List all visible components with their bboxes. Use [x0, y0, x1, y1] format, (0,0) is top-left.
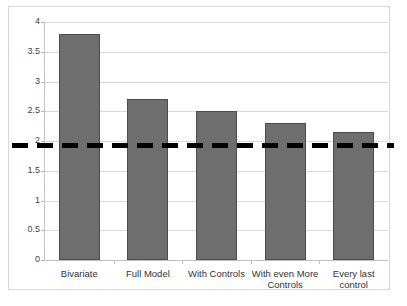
y-tick-mark	[41, 111, 45, 112]
y-tick-label: 1.5	[8, 166, 40, 175]
x-axis-category-label: Bivariate	[45, 268, 114, 279]
x-axis-category-label: Every last control	[319, 268, 388, 290]
x-axis-line	[45, 260, 388, 261]
y-tick-mark	[41, 230, 45, 231]
x-tick-mark	[114, 260, 115, 264]
x-tick-mark	[182, 260, 183, 264]
bar	[127, 99, 168, 260]
y-tick-mark	[41, 260, 45, 261]
plot-area	[45, 22, 388, 260]
bar-chart: 43.532.521.510.50 BivariateFull ModelWit…	[0, 0, 407, 306]
x-axis-category-label: With Controls	[182, 268, 251, 279]
y-tick-label: 0.5	[8, 225, 40, 234]
y-tick-mark	[41, 52, 45, 53]
bar	[333, 132, 374, 260]
y-tick-label: 3	[8, 77, 40, 86]
x-tick-mark	[319, 260, 320, 264]
y-tick-mark	[41, 141, 45, 142]
y-tick-label: 4	[8, 17, 40, 26]
y-tick-mark	[41, 82, 45, 83]
gridline	[45, 22, 388, 23]
bar	[196, 111, 237, 260]
y-tick-mark	[41, 201, 45, 202]
y-axis: 43.532.521.510.50	[4, 0, 40, 306]
y-tick-label: 1	[8, 196, 40, 205]
y-tick-mark	[41, 171, 45, 172]
y-tick-label: 3.5	[8, 47, 40, 56]
x-tick-mark	[251, 260, 252, 264]
x-axis-category-label: Full Model	[114, 268, 183, 279]
y-tick-label: 0	[8, 255, 40, 264]
y-tick-mark	[41, 22, 45, 23]
reference-line-dashed	[12, 143, 394, 148]
x-axis-category-label: With even More Controls	[251, 268, 320, 290]
y-tick-label: 2.5	[8, 106, 40, 115]
